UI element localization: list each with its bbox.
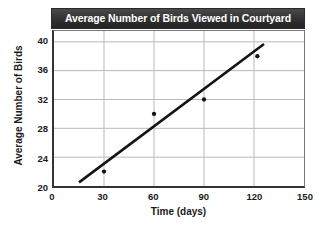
y-tick-label: 32 bbox=[22, 95, 48, 105]
x-axis-title: Time (days) bbox=[52, 206, 305, 217]
x-tick-label: 0 bbox=[32, 192, 72, 202]
data-point bbox=[152, 112, 156, 116]
plot-area bbox=[52, 30, 305, 188]
y-tick-label: 28 bbox=[22, 124, 48, 134]
x-tick-label: 90 bbox=[184, 192, 224, 202]
x-tick-label: 120 bbox=[234, 192, 274, 202]
y-tick-label: 40 bbox=[22, 36, 48, 46]
chart-title: Average Number of Birds Viewed in Courty… bbox=[65, 13, 291, 24]
x-axis-ticks: 0306090120150 bbox=[52, 192, 305, 206]
data-point bbox=[102, 169, 106, 173]
chart-figure: Average Number of Birds Viewed in Courty… bbox=[0, 0, 330, 230]
x-tick-label: 30 bbox=[83, 192, 123, 202]
y-tick-label: 24 bbox=[22, 154, 48, 164]
x-tick-label: 60 bbox=[133, 192, 173, 202]
chart-title-bar: Average Number of Birds Viewed in Courty… bbox=[51, 8, 305, 29]
data-point bbox=[202, 97, 206, 101]
y-axis-ticks: 202428323640 bbox=[18, 30, 48, 188]
y-tick-label: 36 bbox=[22, 66, 48, 76]
x-tick-label: 150 bbox=[285, 192, 325, 202]
data-point bbox=[255, 54, 259, 58]
data-layer bbox=[54, 31, 304, 186]
trend-line bbox=[79, 44, 264, 182]
